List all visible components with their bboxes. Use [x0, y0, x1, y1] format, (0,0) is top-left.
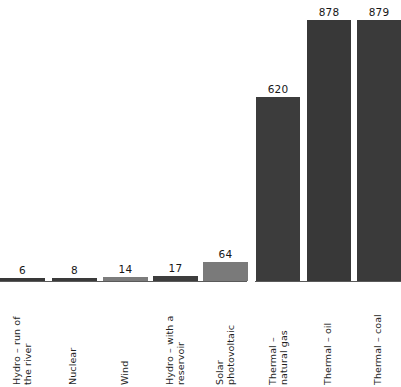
category-label-line: Hydro – run of	[12, 316, 23, 385]
category-label-line: Wind	[120, 361, 131, 385]
bar-value-label: 620	[268, 83, 289, 95]
category-label-line: Solar	[215, 325, 226, 385]
bar-thermal-coal[interactable]: 879	[357, 6, 401, 281]
bar-chart: 6 8 14 17 64	[0, 0, 401, 387]
bar-rect	[307, 20, 351, 281]
bar-wind[interactable]: 14	[103, 263, 148, 281]
axis-line-group-thermal	[255, 281, 401, 282]
bar-value-label: 64	[219, 248, 233, 260]
bar-nuclear[interactable]: 8	[52, 264, 97, 281]
bar-thermal-natural-gas[interactable]: 620	[256, 83, 300, 281]
category-label-line: natural gas	[279, 330, 290, 385]
bar-slot-2: 14	[103, 0, 148, 281]
bar-slot-6: 878	[307, 0, 351, 281]
bar-value-label: 17	[169, 262, 183, 274]
plot-area: 6 8 14 17 64	[0, 0, 401, 281]
category-label-line: the river	[23, 316, 34, 385]
bar-value-label: 14	[119, 263, 133, 275]
bar-value-label: 878	[319, 6, 340, 18]
bar-rect	[357, 20, 401, 281]
category-label-line: Hydro – with a	[165, 316, 176, 386]
bar-slot-3: 17	[153, 0, 198, 281]
bar-value-label: 6	[19, 264, 26, 276]
axis-line-group-renewables	[0, 281, 247, 282]
bar-solar-photovoltaic[interactable]: 64	[203, 248, 248, 281]
category-labels: Hydro – run of the river Nuclear Wind Hy…	[0, 284, 401, 387]
category-label-line: Thermal – oil	[323, 323, 334, 385]
category-label-line: reservoir	[176, 316, 187, 386]
bar-rect	[203, 262, 248, 281]
bar-slot-4: 64	[203, 0, 248, 281]
bar-slot-7: 879	[357, 0, 401, 281]
bar-value-label: 8	[71, 264, 78, 276]
bar-slot-0: 6	[0, 0, 45, 281]
category-label-line: Nuclear	[68, 348, 79, 385]
bar-hydro-with-a-reservoir[interactable]: 17	[153, 262, 198, 281]
bar-hydro-run-of-the-river[interactable]: 6	[0, 264, 45, 281]
category-label-line: photovoltaic	[226, 325, 237, 385]
category-label-line: Thermal –	[268, 330, 279, 385]
bar-slot-5: 620	[256, 0, 300, 281]
bar-thermal-oil[interactable]: 878	[307, 6, 351, 281]
category-label-line: Thermal – coal	[373, 314, 384, 385]
bar-rect	[256, 97, 300, 281]
bar-slot-1: 8	[52, 0, 97, 281]
bar-value-label: 879	[369, 6, 390, 18]
